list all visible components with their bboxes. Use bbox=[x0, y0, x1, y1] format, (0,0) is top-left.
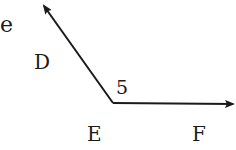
label-vertex-e: E bbox=[87, 124, 102, 144]
ray-ef bbox=[113, 103, 233, 104]
label-point-d: D bbox=[34, 52, 50, 72]
label-point-f: F bbox=[192, 124, 206, 144]
label-e-partial: e bbox=[0, 14, 13, 36]
label-angle-5: 5 bbox=[116, 78, 128, 97]
ray-ed bbox=[44, 6, 113, 103]
